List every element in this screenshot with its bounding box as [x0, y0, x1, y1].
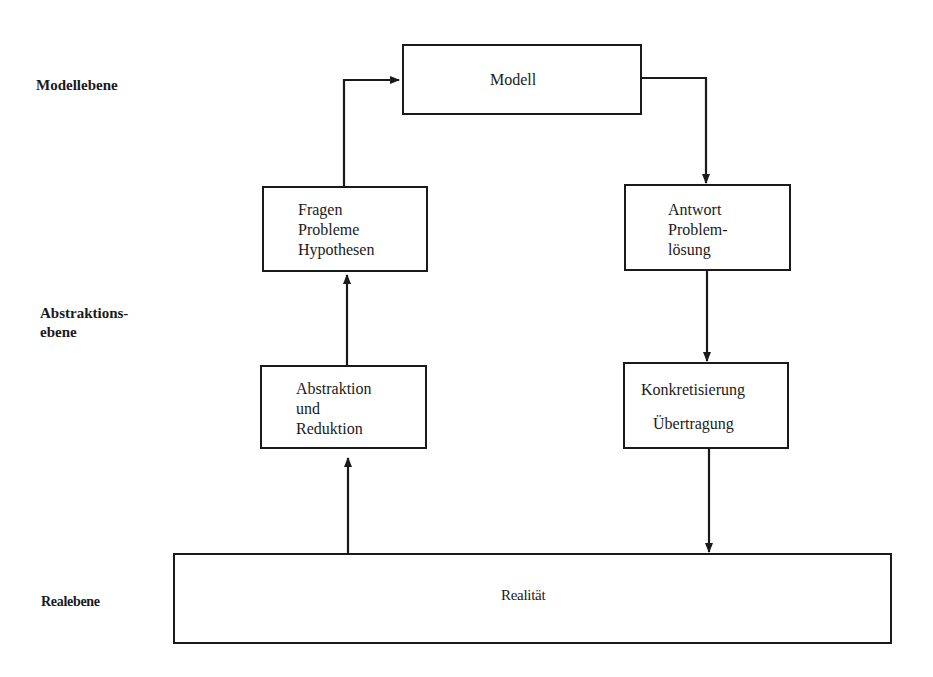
- edge-modell-to-antwort: [641, 78, 706, 183]
- box-konkretisierung-label: Konkretisierung Übertragung: [641, 380, 745, 434]
- box-abstraktion-line-3: Reduktion: [296, 419, 372, 439]
- box-fragen-line-3: Hypothesen: [298, 240, 374, 260]
- box-antwort-label: Antwort Problem- lösung: [668, 200, 728, 260]
- box-fragen-label: Fragen Probleme Hypothesen: [298, 200, 374, 260]
- box-abstraktion-label: Abstraktion und Reduktion: [296, 379, 372, 439]
- box-antwort-line-3: lösung: [668, 240, 728, 260]
- box-konkretisierung: Konkretisierung Übertragung: [623, 362, 789, 449]
- box-fragen-line-2: Probleme: [298, 220, 374, 240]
- box-abstraktion-line-2: und: [296, 399, 372, 419]
- box-konkretisierung-line-1: Konkretisierung: [641, 380, 745, 400]
- box-modell: Modell: [402, 44, 642, 115]
- box-realitaet-label: Realität: [501, 585, 545, 605]
- box-realitaet: Realität: [173, 553, 892, 644]
- box-fragen: Fragen Probleme Hypothesen: [262, 186, 428, 272]
- box-antwort: Antwort Problem- lösung: [624, 184, 791, 271]
- box-konkretisierung-line-2: Übertragung: [653, 414, 745, 434]
- edge-fragen-to-modell: [344, 80, 399, 187]
- box-antwort-line-1: Antwort: [668, 200, 728, 220]
- box-fragen-line-1: Fragen: [298, 200, 374, 220]
- box-antwort-line-2: Problem-: [668, 220, 728, 240]
- box-modell-label: Modell: [490, 70, 536, 90]
- box-abstraktion-line-1: Abstraktion: [296, 379, 372, 399]
- box-abstraktion: Abstraktion und Reduktion: [260, 365, 427, 449]
